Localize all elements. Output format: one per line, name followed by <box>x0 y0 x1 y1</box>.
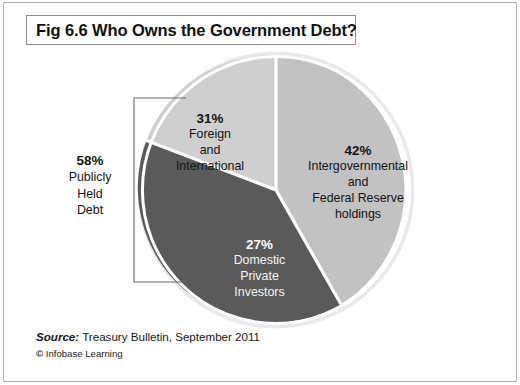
slice-percent-foreign: 31% <box>150 110 270 127</box>
slice-text-foreign-line-1: Foreign <box>150 127 270 143</box>
slice-text-domestic-line-1: Domestic <box>207 253 312 269</box>
figure-container: Fig 6.6 Who Owns the Government Debt? <box>0 0 520 385</box>
credit-line: © Infobase Learning <box>36 348 456 359</box>
slice-label-domestic-private: 27% Domestic Private Investors <box>207 236 312 301</box>
copyright-icon: © <box>36 348 43 359</box>
source-line: Source: Treasury Bulletin, September 201… <box>36 330 456 343</box>
slice-percent-intergovernmental: 42% <box>288 142 428 159</box>
slice-text-intergovernmental-line-4: holdings <box>288 207 428 223</box>
slice-text-domestic-line-3: Investors <box>207 285 312 301</box>
annotation-label-publicly-held-debt: 58% Publicly Held Debt <box>48 152 132 218</box>
slice-percent-domestic: 27% <box>207 236 312 253</box>
slice-label-intergovernmental: 42% Intergovernmental and Federal Reserv… <box>288 142 428 223</box>
slice-text-foreign-line-2: and <box>150 143 270 159</box>
annotation-percent-publicly-held: 58% <box>48 152 132 169</box>
slice-text-foreign-line-3: International <box>150 159 270 175</box>
pie-chart: 31% Foreign and International 42% Interg… <box>0 0 520 385</box>
slice-text-domestic-line-2: Private <box>207 269 312 285</box>
source-label: Source: <box>36 330 79 343</box>
annotation-text-publicly-held-line-2: Held <box>48 186 132 202</box>
figure-footer: Source: Treasury Bulletin, September 201… <box>36 330 456 359</box>
credit-text: Infobase Learning <box>46 348 123 359</box>
slice-text-intergovernmental-line-1: Intergovernmental <box>288 159 428 175</box>
slice-text-intergovernmental-line-3: Federal Reserve <box>288 191 428 207</box>
slice-label-foreign-international: 31% Foreign and International <box>150 110 270 175</box>
annotation-text-publicly-held-line-3: Debt <box>48 202 132 218</box>
source-value: Treasury Bulletin, September 2011 <box>82 330 260 343</box>
annotation-text-publicly-held-line-1: Publicly <box>48 169 132 185</box>
slice-text-intergovernmental-line-2: and <box>288 175 428 191</box>
